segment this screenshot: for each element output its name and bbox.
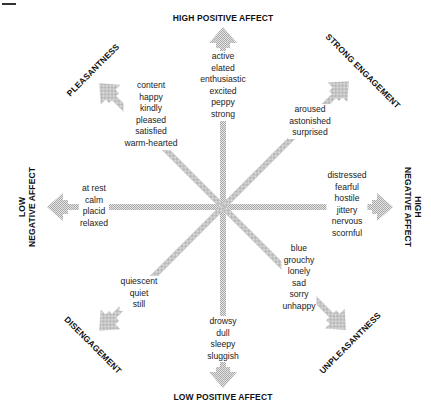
word: elated <box>200 63 245 75</box>
word: aroused <box>289 104 331 116</box>
cluster-low-positive: drowsy dull sleepy sluggish <box>206 316 240 362</box>
label-low-negative-affect: LOW NEGATIVE AFFECT <box>17 167 37 247</box>
word: still <box>121 299 158 311</box>
word: excited <box>200 86 245 98</box>
word: scornful <box>327 228 366 240</box>
label-high-negative-affect: HIGH NEGATIVE AFFECT <box>403 167 423 247</box>
word: peppy <box>200 97 245 109</box>
word: grouchy <box>283 255 316 267</box>
word: happy <box>124 92 177 104</box>
word: dull <box>207 328 239 340</box>
word: content <box>124 80 177 92</box>
word: kindly <box>124 103 177 115</box>
word: satisfied <box>124 126 177 138</box>
word: sorry <box>283 289 316 301</box>
word: surprised <box>289 127 331 139</box>
label-high-positive-affect: HIGH POSITIVE AFFECT <box>173 13 273 23</box>
word: drowsy <box>207 316 239 328</box>
label-low-negative-affect-line2: NEGATIVE AFFECT <box>27 167 37 247</box>
word: relaxed <box>80 218 108 230</box>
word: warm-hearted <box>124 138 177 150</box>
cluster-high-negative: distressed fearful hostile jittery nervo… <box>326 170 367 240</box>
word: sluggish <box>207 351 239 363</box>
word: fearful <box>327 182 366 194</box>
label-low-positive-affect: LOW POSITIVE AFFECT <box>174 392 273 402</box>
word: at rest <box>80 183 108 195</box>
word: active <box>200 51 245 63</box>
cluster-unpleasantness: blue grouchy lonely sad sorry unhappy <box>282 243 317 313</box>
cluster-high-positive: active elated enthusiastic excited peppy… <box>199 51 246 121</box>
cluster-strong-engagement: aroused astonished surprised <box>288 104 332 139</box>
word: distressed <box>327 170 366 182</box>
word: sleepy <box>207 339 239 351</box>
word: jittery <box>327 205 366 217</box>
word: hostile <box>327 193 366 205</box>
word: astonished <box>289 116 331 128</box>
arrow-left <box>47 193 223 221</box>
cluster-disengagement: quiescent quiet still <box>120 276 159 311</box>
word: strong <box>200 109 245 121</box>
cluster-low-negative: at rest calm placid relaxed <box>79 183 109 229</box>
word: quiescent <box>121 276 158 288</box>
word: enthusiastic <box>200 74 245 86</box>
word: nervous <box>327 216 366 228</box>
label-low-negative-affect-line1: LOW <box>17 167 27 247</box>
word: sad <box>283 278 316 290</box>
word: unhappy <box>283 301 316 313</box>
word: blue <box>283 243 316 255</box>
word: quiet <box>121 288 158 300</box>
word: lonely <box>283 266 316 278</box>
word: pleased <box>124 115 177 127</box>
label-high-negative-affect-line1: HIGH <box>413 167 423 247</box>
label-high-negative-affect-line2: NEGATIVE AFFECT <box>403 167 413 247</box>
cluster-pleasantness: content happy kindly pleased satisfied w… <box>123 80 178 150</box>
word: placid <box>80 206 108 218</box>
word: calm <box>80 195 108 207</box>
